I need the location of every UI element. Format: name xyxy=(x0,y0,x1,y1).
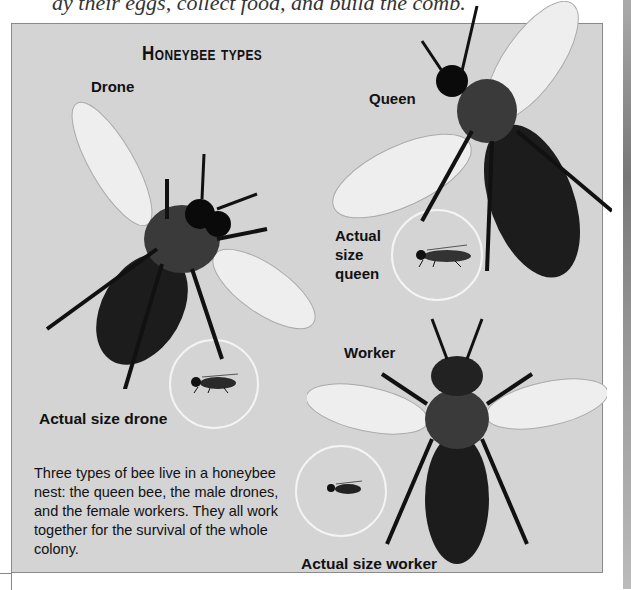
actual-size-drone-label: Actual size drone xyxy=(39,410,167,428)
description-paragraph: Three types of bee live in a honeybee ne… xyxy=(34,464,294,559)
panel-title: Honeybee types xyxy=(142,42,262,65)
worker-bee-illustration xyxy=(307,314,607,574)
page-corner-mark xyxy=(0,573,12,590)
honeybee-types-panel: Honeybee types Drone Queen Worker Actual… xyxy=(11,23,603,573)
queen-bee-illustration xyxy=(322,1,612,301)
drone-bee-illustration xyxy=(32,69,332,389)
adjacent-page-strip xyxy=(623,0,631,589)
